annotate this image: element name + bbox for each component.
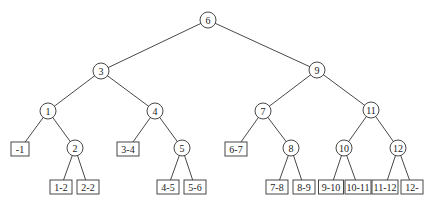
tree-leaf-11-12: 11-12 bbox=[372, 180, 398, 194]
node-label: 2 bbox=[73, 143, 78, 154]
leaf-label: 11-12 bbox=[374, 182, 397, 193]
node-label: 9 bbox=[315, 65, 320, 76]
leaf-label: 3-4 bbox=[121, 144, 134, 155]
tree-node-4: 4 bbox=[147, 103, 163, 119]
tree-node-7: 7 bbox=[255, 103, 271, 119]
tree-node-11: 11 bbox=[363, 102, 379, 118]
tree-diagram: 639147112581012 -13-46-71-22-24-55-67-88… bbox=[0, 0, 432, 202]
tree-leaf-1-2: 1-2 bbox=[50, 180, 72, 194]
node-label: 11 bbox=[366, 105, 376, 116]
leaf-label: 1-2 bbox=[54, 182, 67, 193]
tree-leaf-10-11: 10-11 bbox=[345, 180, 371, 194]
tree-leaf--1: -1 bbox=[11, 142, 29, 156]
tree-edges bbox=[20, 20, 412, 187]
node-label: 5 bbox=[180, 143, 185, 154]
node-label: 12 bbox=[393, 143, 403, 154]
leaf-label: 8-9 bbox=[297, 182, 310, 193]
leaf-label: 6-7 bbox=[229, 144, 242, 155]
tree-edge bbox=[48, 71, 101, 111]
node-label: 8 bbox=[289, 143, 294, 154]
tree-edge bbox=[101, 71, 155, 111]
tree-leaf-7-8: 7-8 bbox=[266, 180, 288, 194]
leaf-label: 4-5 bbox=[161, 182, 174, 193]
tree-node-9: 9 bbox=[309, 62, 325, 78]
tree-leaf-12-: 12- bbox=[401, 180, 423, 194]
leaf-label: 5-6 bbox=[188, 182, 201, 193]
leaf-label: 9-10 bbox=[322, 182, 340, 193]
tree-edge bbox=[101, 20, 208, 71]
tree-node-6: 6 bbox=[200, 12, 216, 28]
tree-node-3: 3 bbox=[93, 63, 109, 79]
tree-leaf-2-2: 2-2 bbox=[77, 180, 99, 194]
node-label: 3 bbox=[99, 66, 104, 77]
tree-node-8: 8 bbox=[283, 140, 299, 156]
tree-leaf-8-9: 8-9 bbox=[293, 180, 315, 194]
tree-leaf-6-7: 6-7 bbox=[225, 142, 247, 156]
tree-node-10: 10 bbox=[336, 140, 352, 156]
leaf-label: -1 bbox=[16, 144, 24, 155]
tree-leaf-3-4: 3-4 bbox=[117, 142, 139, 156]
node-label: 6 bbox=[206, 15, 211, 26]
leaf-label: 12- bbox=[405, 182, 418, 193]
node-label: 1 bbox=[46, 106, 51, 117]
tree-leaf-4-5: 4-5 bbox=[157, 180, 179, 194]
tree-edge bbox=[208, 20, 317, 70]
leaf-label: 10-11 bbox=[347, 182, 370, 193]
node-label: 4 bbox=[153, 106, 158, 117]
tree-edge bbox=[317, 70, 371, 110]
tree-node-2: 2 bbox=[67, 140, 83, 156]
tree-edge bbox=[263, 70, 317, 111]
tree-nodes: 639147112581012 bbox=[40, 12, 406, 156]
tree-leaf-5-6: 5-6 bbox=[184, 180, 206, 194]
tree-leaf-9-10: 9-10 bbox=[319, 180, 344, 194]
node-label: 10 bbox=[339, 143, 349, 154]
tree-node-1: 1 bbox=[40, 103, 56, 119]
tree-node-12: 12 bbox=[390, 140, 406, 156]
leaf-label: 7-8 bbox=[270, 182, 283, 193]
tree-node-5: 5 bbox=[174, 140, 190, 156]
leaf-label: 2-2 bbox=[81, 182, 94, 193]
node-label: 7 bbox=[261, 106, 266, 117]
